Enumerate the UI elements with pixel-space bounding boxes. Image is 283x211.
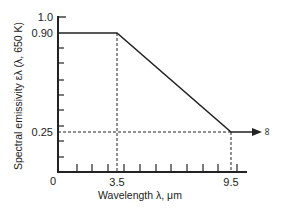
x-axis-title: Wavelength λ, μm (98, 189, 182, 201)
origin-label: 0 (50, 175, 56, 187)
x-label-3-5: 3.5 (109, 176, 124, 188)
x-ticks (77, 164, 237, 172)
y-label-1-0: 1.0 (38, 11, 53, 23)
y-axis-title: Spectral emissivity ελ (λ, 650 K) (12, 22, 24, 170)
infinity-label: ∞ (262, 128, 274, 136)
y-label-0-25: 0.25 (32, 126, 53, 138)
emissivity-chart: 1.0 0.90 0.25 0 3.5 9.5 ∞ Wavelength λ, … (0, 0, 283, 211)
emissivity-curve (58, 33, 252, 132)
reference-lines (58, 33, 231, 172)
x-label-9-5: 9.5 (223, 176, 238, 188)
arrow-head-icon (252, 128, 262, 136)
y-label-0-90: 0.90 (32, 27, 53, 39)
